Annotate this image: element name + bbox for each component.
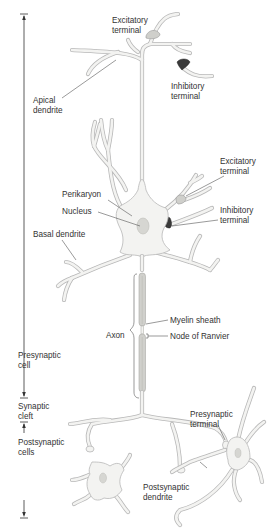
node-of-ranvier <box>141 326 144 334</box>
nucleus <box>137 218 149 234</box>
label-inhibitory-terminal-top: Inhibitory terminal <box>171 82 204 102</box>
axon <box>139 256 146 392</box>
label-postsynaptic-dendrite: Postsynaptic dendrite <box>143 483 189 503</box>
label-postsynaptic-cells: Postsynaptic cells <box>18 438 64 458</box>
axon-terminals <box>70 392 230 473</box>
label-node-of-ranvier: Node of Ranvier <box>170 332 229 342</box>
axon-brace <box>130 274 139 398</box>
label-excitatory-terminal-top: Excitatory terminal <box>112 16 148 36</box>
label-perikaryon: Perikaryon <box>62 190 101 200</box>
label-presynaptic-terminal: Presynaptic terminal <box>190 410 233 430</box>
label-myelin-sheath: Myelin sheath <box>170 316 221 326</box>
label-nucleus: Nucleus <box>62 207 92 217</box>
postsynaptic-cell-right <box>172 388 264 525</box>
label-inhibitory-terminal-side: Inhibitory terminal <box>220 206 253 226</box>
side-terminal-axons <box>172 188 212 224</box>
label-presynaptic-cell: Presynaptic cell <box>18 351 61 371</box>
label-synaptic-cleft: Synaptic cleft <box>18 402 49 422</box>
excitatory-terminal-side <box>176 195 186 204</box>
excitatory-terminal-top <box>146 30 160 38</box>
inhibitory-terminal-top <box>177 59 190 70</box>
label-basal-dendrite: Basal dendrite <box>33 230 85 240</box>
label-axon: Axon <box>106 331 125 341</box>
label-apical-dendrite: Apical dendrite <box>33 96 63 116</box>
label-excitatory-terminal-side: Excitatory terminal <box>220 157 256 177</box>
postsynaptic-cell-left <box>72 455 130 512</box>
